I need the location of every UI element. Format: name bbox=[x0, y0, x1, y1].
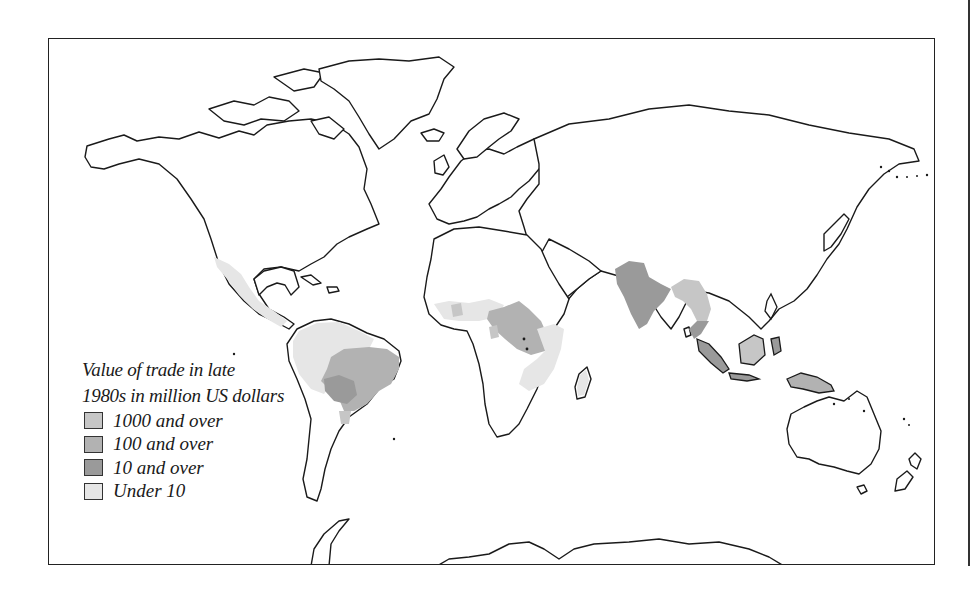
north-america bbox=[85, 119, 379, 329]
legend-label: 10 and over bbox=[113, 457, 204, 479]
legend-label: Under 10 bbox=[113, 480, 185, 502]
tasmania bbox=[857, 485, 867, 494]
arctic-islands bbox=[209, 97, 299, 125]
legend-title-line-2: 1980s in million US dollars bbox=[82, 383, 284, 409]
legend-swatch bbox=[84, 483, 103, 500]
great-britain bbox=[434, 155, 449, 175]
antarctic-peninsula bbox=[311, 519, 349, 565]
map-legend: Value of trade in late 1980s in million … bbox=[82, 357, 284, 503]
asia bbox=[519, 105, 919, 329]
page-edge-rule bbox=[968, 0, 970, 566]
region-sumatra bbox=[697, 339, 729, 373]
region-borneo bbox=[739, 335, 765, 365]
legend-item-1000-and-over: 1000 and over bbox=[84, 409, 284, 433]
legend-label: 100 and over bbox=[113, 433, 213, 455]
legend-item-100-and-over: 100 and over bbox=[84, 433, 284, 457]
legend-item-10-and-over: 10 and over bbox=[84, 456, 284, 480]
legend-swatch bbox=[84, 436, 103, 453]
legend-title-line-1: Value of trade in late bbox=[82, 357, 284, 383]
antarctica bbox=[437, 539, 784, 565]
iceland bbox=[421, 129, 444, 141]
new-zealand bbox=[909, 453, 921, 469]
legend-item-under-10: Under 10 bbox=[84, 480, 284, 504]
legend-swatch bbox=[84, 412, 103, 429]
legend-label: 1000 and over bbox=[113, 410, 223, 432]
legend-swatch bbox=[84, 459, 103, 476]
